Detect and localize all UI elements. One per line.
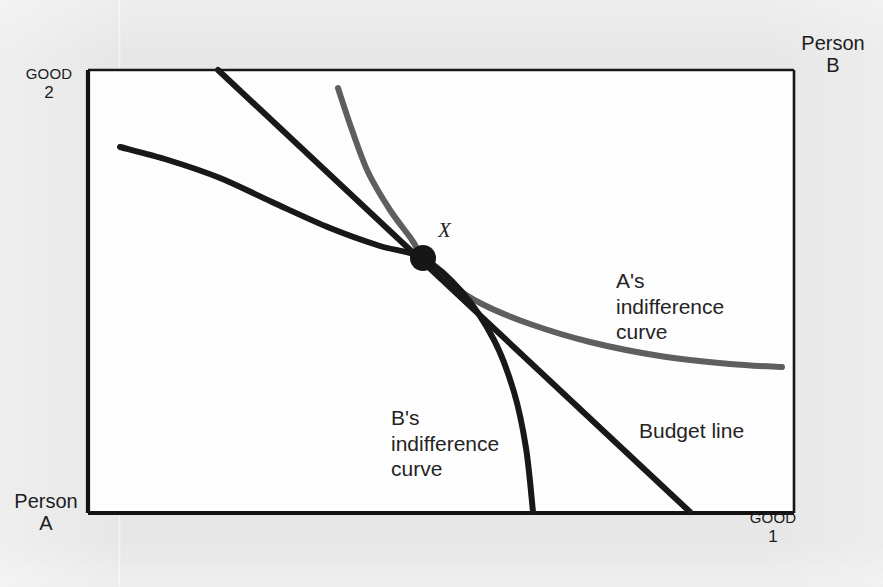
good-2-axis-label: GOOD 2 <box>14 66 84 102</box>
figure-page: GOOD 2 Person B Person A GOOD 1 A's indi… <box>0 0 883 587</box>
good-1-axis-label: GOOD 1 <box>738 510 808 546</box>
a-indifference-curve-label: A's indifference curve <box>616 268 724 345</box>
person-a-label-line2: A <box>6 512 86 534</box>
good-2-axis-label-line2: 2 <box>14 83 84 102</box>
person-b-label: Person B <box>790 32 876 77</box>
person-a-label-line1: Person <box>6 490 86 512</box>
person-a-label: Person A <box>6 490 86 535</box>
good-2-axis-label-line1: GOOD <box>14 66 84 83</box>
tangency-point-marker <box>410 245 436 271</box>
b-indifference-curve-label: B's indifference curve <box>391 405 499 482</box>
person-b-label-line2: B <box>790 54 876 76</box>
good-1-axis-label-line1: GOOD <box>738 510 808 527</box>
good-1-axis-label-line2: 1 <box>738 527 808 546</box>
budget-line-label: Budget line <box>639 418 744 444</box>
diagram-canvas <box>0 0 883 587</box>
person-b-label-line1: Person <box>790 32 876 54</box>
tangency-point-label: X <box>438 218 451 244</box>
